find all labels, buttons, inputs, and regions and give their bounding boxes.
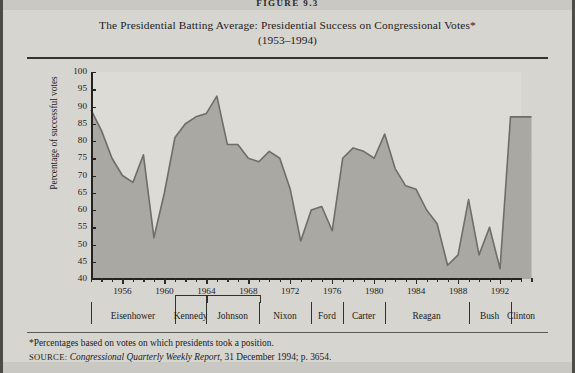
x-tick-mark: [91, 278, 92, 282]
x-tick-mark: [427, 278, 428, 282]
x-tick-mark: [248, 278, 249, 284]
y-axis-title: Percentage of successful votes: [49, 43, 59, 223]
y-tick-label: 55: [65, 222, 87, 231]
president-label-kennedy: Kennedy: [174, 311, 208, 321]
x-tick-mark: [217, 278, 218, 282]
president-bracket: [206, 295, 260, 303]
x-tick-label: 1988: [449, 286, 467, 296]
x-tick-mark: [406, 278, 407, 282]
president-label-carter: Carter: [352, 311, 375, 321]
y-tick-mark: [91, 141, 96, 142]
y-tick-label: 70: [65, 171, 87, 180]
president-divider: [469, 302, 470, 324]
x-tick-mark: [206, 278, 207, 284]
president-divider: [206, 302, 207, 324]
president-band: EisenhowerKennedyJohnsonNixonFordCarterR…: [91, 302, 522, 326]
y-tick-mark: [91, 176, 96, 177]
x-tick-mark: [437, 278, 438, 282]
x-tick-mark: [269, 278, 270, 282]
figure-root: FIGURE 9.3 The Presidential Batting Aver…: [0, 0, 575, 373]
x-tick-label: 1972: [281, 286, 299, 296]
x-tick-mark: [133, 278, 134, 282]
x-tick-label: 1976: [323, 286, 341, 296]
x-tick-mark: [511, 278, 512, 282]
y-tick-mark: [91, 72, 96, 73]
x-tick-mark: [238, 278, 239, 282]
footnotes: *Percentages based on votes on which pre…: [29, 337, 548, 364]
x-tick-mark: [353, 278, 354, 282]
x-tick-mark: [301, 278, 302, 282]
x-tick-mark: [458, 278, 459, 284]
y-tick-label: 90: [65, 102, 87, 111]
y-axis-tick-labels: 100959085807570656055504540: [63, 66, 87, 281]
footnote-rule: [27, 332, 548, 333]
x-tick-mark: [469, 278, 470, 282]
y-tick-mark: [91, 158, 96, 159]
figure-title-line1: The Presidential Batting Average: Presid…: [3, 18, 572, 33]
x-tick-mark: [164, 278, 165, 284]
president-divider: [343, 302, 344, 324]
source-publication: Congressional Quarterly Weekly Report: [70, 352, 220, 362]
y-tick-mark: [91, 89, 96, 90]
source-detail: , 31 December 1994; p. 3654.: [220, 352, 331, 362]
x-tick-mark: [280, 278, 281, 282]
y-tick-label: 80: [65, 136, 87, 145]
y-tick-label: 45: [65, 257, 87, 266]
x-tick-mark: [143, 278, 144, 282]
x-tick-mark: [490, 278, 491, 282]
y-tick-mark: [91, 227, 96, 228]
x-tick-label: 1980: [365, 286, 383, 296]
y-tick-mark: [91, 124, 96, 125]
x-tick-mark: [416, 278, 417, 284]
y-tick-label: 95: [65, 84, 87, 93]
footnote-asterisk: *Percentages based on votes on which pre…: [29, 337, 548, 350]
x-tick-mark: [531, 278, 532, 282]
x-tick-mark: [196, 278, 197, 282]
x-tick-mark: [322, 278, 323, 282]
x-tick-label: 1956: [113, 286, 131, 296]
y-tick-label: 75: [65, 153, 87, 162]
source-kicker: SOURCE:: [29, 352, 67, 362]
y-tick-mark: [91, 193, 96, 194]
president-label-eisenhower: Eisenhower: [111, 311, 155, 321]
x-tick-mark: [311, 278, 312, 282]
y-tick-mark: [91, 245, 96, 246]
president-divider: [311, 302, 312, 324]
x-tick-mark: [479, 278, 480, 282]
figure-title: The Presidential Batting Average: Presid…: [3, 18, 572, 47]
y-tick-label: 65: [65, 188, 87, 197]
source-line: SOURCE: Congressional Quarterly Weekly R…: [29, 351, 548, 364]
y-tick-label: 60: [65, 205, 87, 214]
president-label-clinton: Clinton: [507, 311, 535, 321]
president-label-ford: Ford: [318, 311, 336, 321]
figure-card: The Presidential Batting Average: Presid…: [3, 10, 572, 362]
x-tick-mark: [395, 278, 396, 282]
x-tick-mark: [259, 278, 260, 282]
title-rule: [27, 57, 548, 59]
president-divider: [259, 302, 260, 324]
president-label-reagan: Reagan: [413, 311, 441, 321]
x-tick-mark: [185, 278, 186, 282]
x-tick-mark: [374, 278, 375, 284]
x-tick-mark: [227, 278, 228, 282]
president-bracket: [175, 295, 208, 303]
x-tick-label: 1992: [491, 286, 509, 296]
president-label-johnson: Johnson: [217, 311, 248, 321]
x-tick-mark: [332, 278, 333, 284]
president-label-bush: Bush: [480, 311, 499, 321]
x-tick-mark: [175, 278, 176, 282]
x-tick-mark: [385, 278, 386, 282]
x-tick-mark: [290, 278, 291, 284]
x-tick-mark: [122, 278, 123, 284]
x-tick-mark: [343, 278, 344, 282]
figure-number: FIGURE 9.3: [0, 0, 575, 8]
y-tick-label: 85: [65, 119, 87, 128]
x-tick-mark: [364, 278, 365, 282]
x-tick-mark: [112, 278, 113, 282]
president-label-nixon: Nixon: [273, 311, 296, 321]
x-tick-mark: [500, 278, 501, 284]
x-tick-label: 1960: [155, 286, 173, 296]
y-tick-mark: [91, 262, 96, 263]
x-tick-mark: [154, 278, 155, 282]
series-area: [91, 96, 531, 279]
